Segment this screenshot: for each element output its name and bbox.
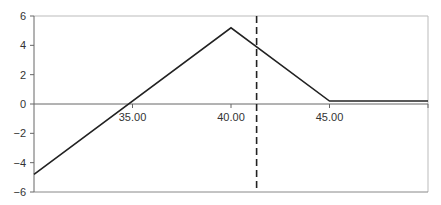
x-tick-label: 35.00 bbox=[119, 111, 147, 123]
payoff-chart: −6−4−20246 35.0040.0045.00 bbox=[0, 0, 441, 205]
y-tick-label: −4 bbox=[13, 157, 26, 169]
y-axis-ticks: −6−4−20246 bbox=[13, 10, 34, 198]
y-tick-label: 4 bbox=[20, 39, 26, 51]
x-tick-label: 40.00 bbox=[217, 111, 245, 123]
x-axis-ticks: 35.0040.0045.00 bbox=[119, 104, 428, 123]
y-tick-label: 6 bbox=[20, 10, 26, 22]
y-tick-label: −6 bbox=[13, 186, 26, 198]
payoff-line bbox=[34, 28, 428, 175]
y-tick-label: 2 bbox=[20, 69, 26, 81]
x-tick-label: 45.00 bbox=[316, 111, 344, 123]
y-tick-label: 0 bbox=[20, 98, 26, 110]
y-tick-label: −2 bbox=[13, 127, 26, 139]
